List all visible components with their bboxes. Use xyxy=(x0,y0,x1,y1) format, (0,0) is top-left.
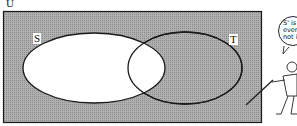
figure-body xyxy=(283,74,297,96)
venn-diagram xyxy=(0,0,297,126)
set-s-label: S xyxy=(33,33,41,44)
bubble-tail xyxy=(283,46,289,54)
figure-head xyxy=(287,62,297,72)
set-t-label: T xyxy=(229,34,238,45)
bubble-line-3: not i xyxy=(283,34,297,41)
